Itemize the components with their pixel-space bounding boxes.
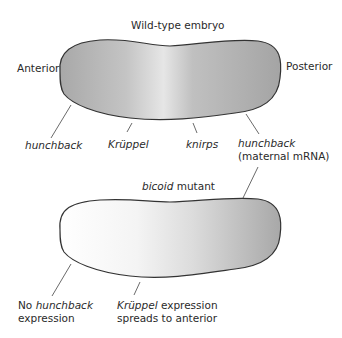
annotation-kruppel-rest: expression	[158, 299, 218, 311]
gene-label-knirps: knirps	[186, 138, 218, 151]
anterior-label: Anterior	[17, 62, 59, 75]
gene-label-hunchback: hunchback	[25, 139, 82, 152]
annotation-hunchback-italic: hunchback	[36, 299, 93, 311]
mutant-title: bicoid mutant	[142, 180, 215, 193]
annotation-no-hunchback: No hunchback expression	[18, 299, 93, 325]
hunchback-maternal-name: hunchback	[238, 137, 295, 149]
posterior-label: Posterior	[286, 60, 332, 73]
embryo-diagram	[0, 0, 342, 338]
leader-line-kruppel-spreads	[134, 282, 140, 295]
leader-line-hunchback	[51, 105, 71, 138]
leader-line-no-hunchback	[52, 264, 71, 296]
mutant-title-rest: mutant	[173, 180, 215, 192]
wildtype-title: Wild-type embryo	[131, 19, 225, 32]
annotation-kruppel-italic: Krüppel	[117, 299, 158, 311]
hunchback-maternal-note: (maternal mRNA)	[238, 150, 329, 162]
leader-line-hunchback-maternal	[246, 114, 259, 134]
mutant-embryo-shape	[60, 198, 281, 277]
gene-label-hunchback-maternal: hunchback (maternal mRNA)	[238, 137, 329, 163]
annotation-expression: expression	[18, 312, 75, 324]
leader-line-knirps	[193, 123, 197, 133]
wildtype-embryo-shape	[60, 40, 281, 120]
annotation-kruppel-spreads: Krüppel expression spreads to anterior	[117, 299, 218, 325]
leader-line-maternal-to-mutant	[243, 167, 258, 198]
leader-line-kruppel	[127, 123, 132, 132]
gene-label-kruppel: Krüppel	[108, 138, 149, 151]
annotation-spreads: spreads to anterior	[117, 312, 217, 324]
annotation-no-prefix: No	[18, 299, 36, 311]
mutant-title-gene: bicoid	[142, 180, 173, 192]
